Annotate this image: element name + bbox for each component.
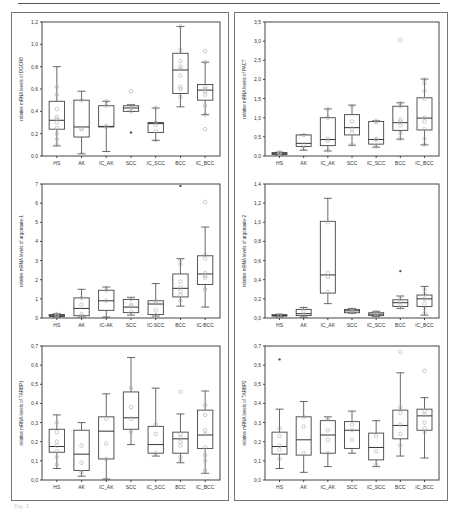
y-tick-label: 0,0	[254, 477, 261, 483]
y-tick-label: 6	[35, 200, 38, 206]
box-ak	[296, 402, 311, 473]
box-ic-bcc	[417, 369, 432, 458]
y-tick-label: 2,5	[254, 57, 261, 63]
y-tick-label: 1,2	[31, 19, 38, 25]
y-tick-label: 3,5	[254, 19, 261, 25]
y-tick-label: 1,0	[31, 41, 38, 47]
x-tick-label: AK	[300, 322, 307, 328]
box-ic-ak	[320, 417, 335, 467]
y-axis-label: relative mRNA levels of TARBP2	[242, 380, 247, 445]
y-tick-label: 5	[35, 219, 38, 225]
x-tick-label: HS	[276, 160, 284, 166]
x-tick-label: HS	[276, 322, 284, 328]
box-ak	[296, 307, 311, 317]
y-tick-label: 7	[35, 181, 38, 187]
x-tick-label: BCC	[175, 322, 186, 328]
x-tick-label: IC-SCC	[147, 322, 165, 328]
box-ic-bcc	[198, 200, 213, 307]
y-tick-label: 0,7	[254, 343, 261, 349]
box-ak	[74, 423, 89, 477]
x-tick-label: BCC	[175, 484, 186, 490]
y-tick-label: 3,0	[254, 38, 261, 44]
y-tick-label: 0,4	[31, 108, 38, 114]
x-tick-label: AK	[78, 484, 85, 490]
box-bcc	[393, 270, 408, 309]
x-tick-label: IC_BCC	[196, 160, 215, 166]
x-tick-label: SCC	[126, 322, 137, 328]
x-tick-label: IC_SCC	[367, 322, 386, 328]
x-tick-label: IC_BCC	[196, 484, 215, 490]
x-tick-label: BCC	[395, 160, 406, 166]
box-bcc	[393, 350, 408, 456]
box-bcc	[173, 25, 188, 107]
y-tick-label: 0,0	[254, 315, 261, 321]
box-scc	[123, 357, 138, 444]
y-tick-label: 1,0	[254, 219, 261, 225]
box-ic-bcc	[417, 286, 432, 315]
box-scc	[345, 411, 360, 453]
y-tick-label: 0,8	[31, 64, 38, 70]
chart-tarbp2: 0,00,10,20,30,40,50,60,7relative mRNA le…	[235, 338, 445, 496]
box-hs	[272, 150, 287, 156]
x-tick-label: BCC	[395, 322, 406, 328]
y-tick-label: 3	[35, 258, 38, 264]
box-ic-ak	[99, 394, 114, 479]
x-tick-label: IC-AK	[100, 322, 114, 328]
box-ic-scc	[369, 119, 384, 148]
y-tick-label: 0	[35, 315, 38, 321]
x-tick-label: IC-BCC	[197, 322, 215, 328]
box-ak	[74, 91, 89, 155]
y-tick-label: 0,5	[31, 381, 38, 387]
box-bcc	[393, 38, 408, 140]
box-ic-scc	[148, 106, 163, 142]
chart-argonaute-2: 0,00,20,40,60,81,01,21,4relative mRNA le…	[235, 176, 445, 334]
y-tick-label: 0,6	[254, 362, 261, 368]
box-hs	[49, 415, 64, 469]
box-hs	[49, 312, 64, 318]
y-tick-label: 0,3	[31, 420, 38, 426]
x-tick-label: IC_BCC	[415, 484, 434, 490]
y-tick-label: 1,5	[254, 96, 261, 102]
y-tick-label: 1,2	[254, 200, 261, 206]
x-tick-label: BCC	[175, 160, 186, 166]
plot-area	[42, 22, 220, 156]
chart-dgcr8: 0,00,20,40,60,81,01,2relative mRNA level…	[12, 14, 226, 172]
x-tick-label: SCC	[347, 322, 358, 328]
y-tick-label: 0,0	[31, 153, 38, 159]
x-tick-label: SCC	[126, 484, 137, 490]
x-tick-label: AK	[78, 160, 85, 166]
y-axis-label: relative mRNA levels of DGCR8	[19, 57, 24, 121]
y-tick-label: 0,5	[254, 381, 261, 387]
y-tick-label: 0,4	[254, 400, 261, 406]
x-tick-label: IC_AK	[321, 160, 336, 166]
box-bcc	[173, 390, 188, 463]
chart-tarbp1: 0,00,10,20,30,40,50,60,7relative mRNA le…	[12, 338, 226, 496]
y-axis-label: relative mRNA levels of TARBP1	[19, 380, 24, 445]
box-scc	[123, 89, 138, 133]
x-tick-label: AK	[78, 322, 85, 328]
box-ic-ak	[320, 198, 335, 303]
y-tick-label: 0,6	[254, 258, 261, 264]
x-tick-label: IC_AK	[99, 484, 114, 490]
box-scc	[123, 297, 138, 315]
y-tick-label: 0,4	[31, 400, 38, 406]
x-tick-label: IC_AK	[99, 160, 114, 166]
y-tick-label: 0,3	[254, 420, 261, 426]
x-tick-label: IC_SCC	[147, 484, 166, 490]
x-tick-label: HS	[276, 484, 284, 490]
box-bcc	[173, 185, 188, 306]
box-ic-ak	[320, 107, 335, 152]
x-tick-label: IC_BCC	[415, 322, 434, 328]
x-tick-label: BCC	[395, 484, 406, 490]
figure-caption: Fig. 1	[14, 503, 29, 509]
x-tick-label: HS	[53, 484, 61, 490]
y-axis-label: relative mRNA levels of argonaute-2	[242, 214, 247, 287]
y-tick-label: 0,5	[254, 134, 261, 140]
y-tick-label: 0,0	[254, 153, 261, 159]
box-ic-bcc	[417, 78, 432, 147]
y-tick-label: 2	[35, 277, 38, 283]
y-axis-label: relative mRNA levels of argonaute-1	[19, 214, 24, 287]
box-hs	[272, 313, 287, 318]
x-tick-label: AK	[300, 160, 307, 166]
box-ic-scc	[148, 284, 163, 317]
